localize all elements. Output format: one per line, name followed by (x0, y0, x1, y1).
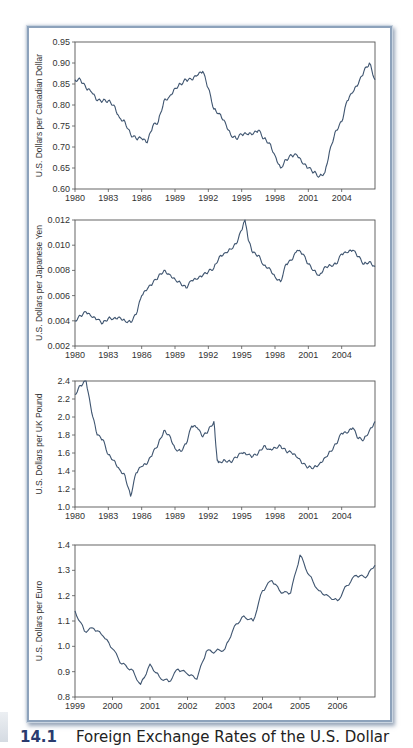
y-tick-label: 1.1 (57, 616, 70, 626)
y-tick-label: 1.4 (57, 540, 70, 550)
x-tick-label: 2005 (290, 701, 310, 711)
caption-number: 14.1 (20, 728, 57, 746)
y-axis-label: U.S. Dollars per Euro (34, 581, 44, 662)
y-tick-label: 1.0 (57, 641, 70, 651)
caption-title: Foreign Exchange Rates of the U.S. Dolla… (76, 728, 389, 746)
x-tick-label: 2001 (140, 701, 160, 711)
x-tick-label: 2000 (102, 701, 122, 711)
x-tick-label: 2003 (215, 701, 235, 711)
x-tick-label: 2002 (177, 701, 197, 711)
x-tick-label: 2004 (252, 701, 272, 711)
x-tick-label: 1999 (65, 701, 85, 711)
x-tick-label: 2006 (327, 701, 347, 711)
plot-frame (75, 545, 375, 697)
figure-caption: 14.1 Foreign Exchange Rates of the U.S. … (0, 728, 413, 748)
series-line (75, 555, 375, 684)
y-tick-label: 0.9 (57, 667, 70, 677)
figure-panel: 0.950.900.850.800.750.700.650.6019801983… (27, 26, 392, 722)
y-tick-label: 1.3 (57, 565, 70, 575)
y-tick-label: 1.2 (57, 591, 70, 601)
